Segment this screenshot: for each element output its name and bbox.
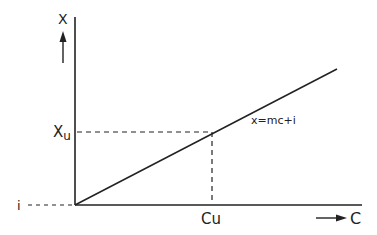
function-line <box>75 69 337 205</box>
intercept-label: i <box>17 198 21 213</box>
y-axis-label: X <box>58 11 68 27</box>
diagram-canvas: X C Xu Cu i x=mc+i <box>0 0 377 235</box>
equation-label: x=mc+i <box>251 114 296 127</box>
xu-label: Xu <box>53 123 71 143</box>
x-axis-label: C <box>350 209 361 228</box>
xu-label-main: X <box>53 123 63 141</box>
xu-label-sub: u <box>63 129 71 143</box>
cu-label: Cu <box>201 210 221 228</box>
x-direction-arrow-icon <box>316 215 347 222</box>
y-direction-arrow-icon <box>60 31 67 63</box>
